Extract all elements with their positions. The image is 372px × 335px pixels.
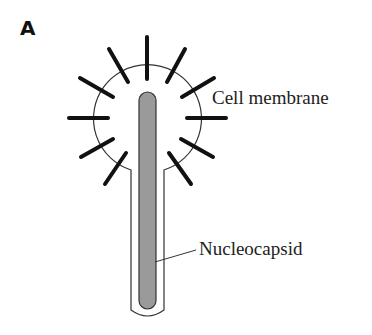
nucleocapsid-rod — [139, 92, 156, 309]
nucleocapsid-label: Nucleocapsid — [199, 238, 302, 260]
virus-diagram — [0, 0, 372, 335]
cell-membrane-label: Cell membrane — [212, 87, 329, 109]
